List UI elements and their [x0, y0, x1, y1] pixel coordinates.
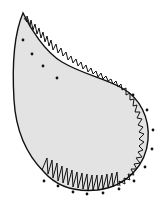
- illustration-canvas: Paisley shape with blanket stitch edging: [0, 0, 168, 204]
- paisley-drawing: [0, 0, 168, 204]
- paisley-shape: [13, 13, 148, 190]
